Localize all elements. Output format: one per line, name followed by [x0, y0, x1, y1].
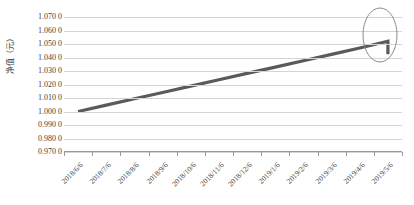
gridline: [64, 17, 402, 18]
y-axis-tick-label: 0.990 0: [14, 121, 62, 129]
x-axis-tick-mark: [374, 152, 375, 156]
gridline: [64, 139, 402, 140]
x-axis-tick-mark: [120, 152, 121, 156]
x-axis-tick-label: 2019/5/6: [318, 161, 394, 205]
y-axis-tick-label: 1.020 0: [14, 81, 62, 89]
net-value-line-chart: 净值（元） 1.070 01.060 01.050 01.040 01.030 …: [0, 0, 414, 205]
gridline: [64, 71, 402, 72]
x-axis-tick-label: 2019/4/6: [290, 161, 366, 205]
x-axis-tick-mark: [149, 152, 150, 156]
x-axis-tick-mark: [205, 152, 206, 156]
x-axis-tick-mark: [177, 152, 178, 156]
y-axis-tick-label: 1.030 0: [14, 67, 62, 75]
x-axis-tick-label: 2018/11/6: [149, 161, 225, 205]
plot-area: [64, 17, 402, 152]
x-axis-tick-label: 2019/3/6: [262, 161, 338, 205]
y-axis-tick-label: 1.050 0: [14, 40, 62, 48]
x-axis-tick-mark: [233, 152, 234, 156]
y-axis-tick-label: 1.040 0: [14, 54, 62, 62]
x-axis-tick-mark: [64, 152, 65, 156]
x-axis-tick-label: 2018/6/6: [9, 161, 85, 205]
series-line: [78, 41, 388, 111]
highlight-ellipse-annotation: [356, 6, 404, 64]
x-axis-tick-mark: [346, 152, 347, 156]
y-axis-tick-label: 1.000 0: [14, 108, 62, 116]
y-axis-tick-label: 0.970 0: [14, 148, 62, 156]
y-axis-title: 净值（元）: [4, 17, 15, 91]
x-axis-tick-mark: [318, 152, 319, 156]
gridline: [64, 31, 402, 32]
gridline: [64, 44, 402, 45]
gridline: [64, 58, 402, 59]
y-axis-tick-label: 0.980 0: [14, 135, 62, 143]
x-axis-tick-label: 2018/8/6: [65, 161, 141, 205]
y-axis-tick-label: 1.060 0: [14, 27, 62, 35]
gridline: [64, 125, 402, 126]
x-axis-tick-mark: [289, 152, 290, 156]
x-axis-tick-mark: [92, 152, 93, 156]
x-axis-tick-label: 2019/2/6: [234, 161, 310, 205]
gridline: [64, 85, 402, 86]
x-axis-tick-label: 2018/9/6: [93, 161, 169, 205]
x-axis-tick-mark: [261, 152, 262, 156]
y-axis-tick-labels: 1.070 01.060 01.050 01.040 01.030 01.020…: [14, 0, 62, 155]
x-axis-tick-label: 2018/12/6: [178, 161, 254, 205]
gridline: [64, 98, 402, 99]
x-axis-tick-label: 2018/7/6: [37, 161, 113, 205]
y-axis-tick-label: 1.010 0: [14, 94, 62, 102]
gridline: [64, 112, 402, 113]
x-axis-tick-mark: [402, 152, 403, 156]
x-axis-tick-label: 2018/10/6: [121, 161, 197, 205]
y-axis-tick-label: 1.070 0: [14, 13, 62, 21]
x-axis-tick-marks: [64, 152, 402, 156]
highlight-ellipse: [363, 8, 397, 62]
x-axis-tick-label: 2019/1/6: [206, 161, 282, 205]
